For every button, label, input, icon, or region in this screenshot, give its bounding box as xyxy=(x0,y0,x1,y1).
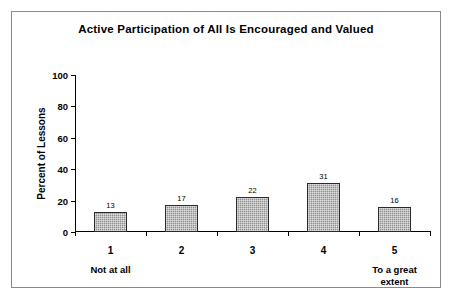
x-axis-tick xyxy=(217,231,218,236)
bar: 16 xyxy=(378,207,411,232)
x-axis-tick xyxy=(288,231,289,236)
x-axis-tick xyxy=(75,231,76,236)
x-axis-label: 1 xyxy=(108,245,114,256)
x-axis-tick xyxy=(430,231,431,236)
bar-value-label: 31 xyxy=(319,172,327,181)
bar: 31 xyxy=(307,183,340,232)
bar-value-label: 13 xyxy=(106,201,114,210)
bar-value-label: 16 xyxy=(390,196,398,205)
x-axis-label: 4 xyxy=(321,245,327,256)
chart-frame: Active Participation of All Is Encourage… xyxy=(11,11,441,288)
y-axis-tick-label: 100 xyxy=(52,70,68,81)
bar: 22 xyxy=(236,197,269,232)
bar: 17 xyxy=(165,205,198,232)
x-axis-sublabel: To a great extent xyxy=(372,264,417,288)
bar-value-label: 17 xyxy=(177,194,185,203)
y-axis-tick-label: 20 xyxy=(57,195,68,206)
y-axis-title-label: Percent of Lessons xyxy=(36,107,47,199)
y-axis-tick xyxy=(71,106,76,107)
y-axis-tick-label: 80 xyxy=(57,101,68,112)
y-axis-tick-label: 60 xyxy=(57,132,68,143)
y-axis-tick xyxy=(71,169,76,170)
y-axis-title: Percent of Lessons xyxy=(34,75,48,232)
bar-value-label: 22 xyxy=(248,186,256,195)
x-axis-sublabel: Not at all xyxy=(90,264,130,276)
bar: 13 xyxy=(94,212,127,232)
y-axis-tick xyxy=(71,201,76,202)
y-axis-tick xyxy=(71,138,76,139)
y-axis-tick-label: 40 xyxy=(57,164,68,175)
x-axis-label: 5 xyxy=(392,245,398,256)
x-axis-label: 3 xyxy=(250,245,256,256)
chart-title: Active Participation of All Is Encourage… xyxy=(12,23,440,35)
y-axis-tick-label: 0 xyxy=(63,227,68,238)
x-axis-tick xyxy=(359,231,360,236)
plot-area: 0204060801001317223116 xyxy=(75,75,430,232)
x-axis-label: 2 xyxy=(179,245,185,256)
x-axis-tick xyxy=(146,231,147,236)
y-axis-tick xyxy=(71,75,76,76)
y-axis-line xyxy=(75,75,76,232)
